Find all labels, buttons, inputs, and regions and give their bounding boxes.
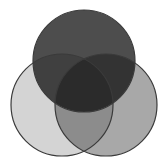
venn-diagram-canvas [0,0,168,166]
venn-diagram-figure [0,0,168,166]
